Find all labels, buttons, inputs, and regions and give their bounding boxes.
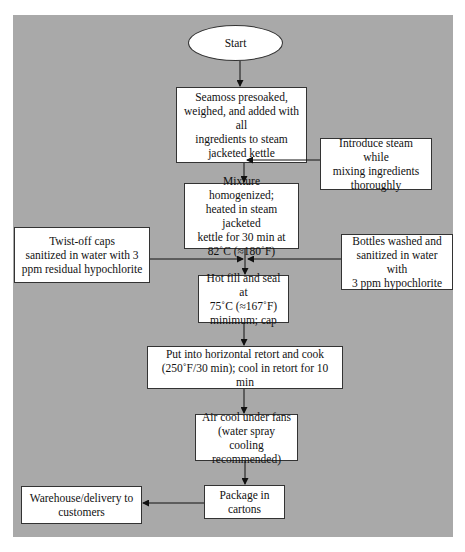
node-twist-off-caps: Twist-off caps sanitized in water with 3… [14,227,150,283]
node-horizontal-retort: Put into horizontal retort and cook (250… [147,346,343,389]
node-seamoss-presoaked: Seamoss presoaked, weighed, and added wi… [176,87,307,163]
node-bottles-washed: Bottles washed and sanitized in water wi… [341,234,453,290]
node-introduce-steam: Introduce steam while mixing ingredients… [320,138,432,190]
node-mixture-homogenized: Mixture homogenized; heated in steam jac… [184,183,299,249]
node-warehouse-delivery: Warehouse/delivery to customers [21,486,142,524]
start-node: Start [188,25,283,61]
node-hot-fill: Hot fill and seal at 75˚C (≈167˚F) minim… [198,275,289,323]
node-package-cartons: Package in cartons [204,485,285,519]
node-air-cool: Air cool under fans (water spray cooling… [195,414,298,461]
